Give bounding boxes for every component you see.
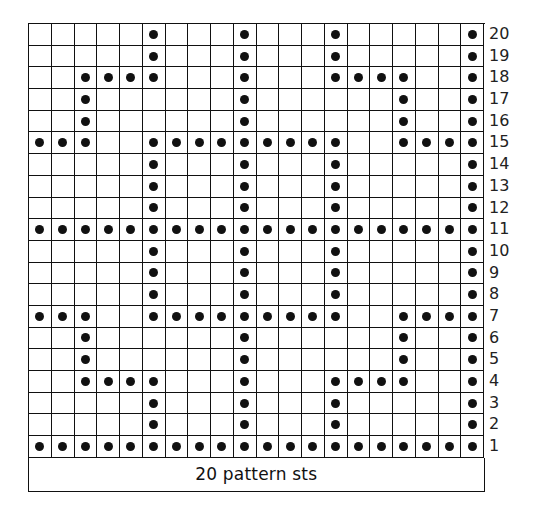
grid-cell [325, 371, 348, 393]
grid-cell [461, 198, 484, 220]
grid-cell [393, 328, 416, 350]
purl-dot-icon [240, 203, 249, 212]
grid-cell [348, 241, 371, 263]
grid-cell [166, 328, 189, 350]
purl-dot-icon [399, 138, 408, 147]
purl-dot-icon [468, 268, 477, 277]
grid-cell [75, 176, 98, 198]
grid-cell [234, 241, 257, 263]
grid-cell [279, 371, 302, 393]
grid-cell [97, 24, 120, 46]
row-label: 8 [487, 283, 509, 305]
grid-cell [143, 328, 166, 350]
grid-cell [234, 111, 257, 133]
grid-cell [439, 436, 462, 458]
grid-cell [166, 67, 189, 89]
grid-cell [120, 67, 143, 89]
grid-cell [279, 328, 302, 350]
purl-dot-icon [81, 117, 90, 126]
grid-cell [211, 219, 234, 241]
purl-dot-icon [399, 312, 408, 321]
grid-cell [29, 371, 52, 393]
grid-cell [439, 132, 462, 154]
grid-cell [211, 328, 234, 350]
purl-dot-icon [81, 95, 90, 104]
grid-cell [461, 414, 484, 436]
grid-cell [234, 328, 257, 350]
purl-dot-icon [104, 73, 113, 82]
purl-dot-icon [399, 442, 408, 451]
grid-cell [325, 284, 348, 306]
row-label: 17 [487, 88, 509, 110]
grid-cell [29, 328, 52, 350]
grid-cell [348, 219, 371, 241]
grid-cell [75, 154, 98, 176]
purl-dot-icon [286, 138, 295, 147]
grid-cell [370, 263, 393, 285]
grid-cell [393, 111, 416, 133]
grid-cell [257, 414, 280, 436]
grid-cell [416, 241, 439, 263]
grid-cell [234, 284, 257, 306]
grid-cell [461, 263, 484, 285]
grid-cell [234, 89, 257, 111]
purl-dot-icon [286, 312, 295, 321]
purl-dot-icon [240, 290, 249, 299]
grid-cell [211, 89, 234, 111]
grid-cell [188, 132, 211, 154]
purl-dot-icon [195, 442, 204, 451]
grid-cell [75, 393, 98, 415]
grid-cell [302, 132, 325, 154]
purl-dot-icon [354, 225, 363, 234]
grid-cell [257, 328, 280, 350]
grid-cell [29, 393, 52, 415]
grid-cell [439, 24, 462, 46]
grid-cell [325, 436, 348, 458]
grid-cell [348, 414, 371, 436]
grid-cell [348, 154, 371, 176]
purl-dot-icon [149, 247, 158, 256]
purl-dot-icon [104, 225, 113, 234]
purl-dot-icon [81, 73, 90, 82]
grid-cell [188, 371, 211, 393]
grid-cell [211, 371, 234, 393]
purl-dot-icon [149, 312, 158, 321]
grid-cell [325, 241, 348, 263]
grid-cell [439, 328, 462, 350]
grid-cell [348, 436, 371, 458]
row-label: 9 [487, 262, 509, 284]
grid-cell [29, 414, 52, 436]
grid-cell [439, 46, 462, 68]
grid-cell [143, 349, 166, 371]
grid-cell [75, 219, 98, 241]
purl-dot-icon [331, 377, 340, 386]
grid-cell [166, 393, 189, 415]
grid-cell [393, 46, 416, 68]
row-label: 5 [487, 348, 509, 370]
grid-cell [97, 176, 120, 198]
row-label: 16 [487, 110, 509, 132]
grid-cell [166, 24, 189, 46]
grid-cell [302, 284, 325, 306]
purl-dot-icon [172, 312, 181, 321]
grid-cell [370, 371, 393, 393]
grid-cell [302, 154, 325, 176]
grid-cell [257, 198, 280, 220]
grid-cell [143, 414, 166, 436]
grid-cell [143, 263, 166, 285]
grid-cell [29, 24, 52, 46]
grid-cell [211, 414, 234, 436]
purl-dot-icon [217, 225, 226, 234]
purl-dot-icon [149, 52, 158, 61]
grid-cell [302, 436, 325, 458]
grid-cell [166, 284, 189, 306]
purl-dot-icon [149, 399, 158, 408]
purl-dot-icon [468, 117, 477, 126]
grid-cell [348, 46, 371, 68]
purl-dot-icon [399, 377, 408, 386]
purl-dot-icon [240, 160, 249, 169]
grid-cell [29, 219, 52, 241]
grid-cell [370, 198, 393, 220]
grid-cell [393, 176, 416, 198]
grid-cell [302, 46, 325, 68]
